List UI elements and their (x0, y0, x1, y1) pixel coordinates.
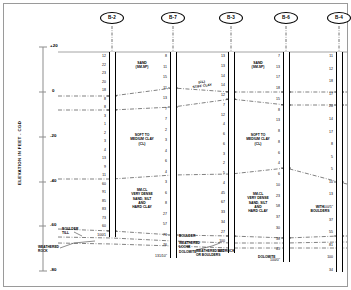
blow-count-value: 13 (205, 54, 225, 58)
blow-count-value: 81 (313, 243, 333, 247)
blow-count-value: 2 (205, 161, 225, 165)
sample-interval-marks (107, 88, 344, 238)
blow-count-value: 67 (205, 200, 225, 204)
blow-count-value: 5 (313, 155, 333, 159)
blow-count-value: 3 (147, 180, 167, 184)
blow-count-value: 13 (313, 192, 333, 196)
annotation-label: WEATHERED ROCK (38, 245, 59, 253)
blow-count-value: 22 (86, 63, 106, 67)
blow-count-value: 85 (86, 199, 106, 203)
blow-count-value: 11 (147, 86, 167, 90)
blow-count-value: 34 (205, 220, 225, 224)
blow-count-value: 20 (313, 104, 333, 108)
blow-count-value: 4 (147, 170, 167, 174)
axis-tick-label: -40 (50, 179, 57, 184)
axis-tick-label: +20 (50, 44, 58, 49)
blow-count-value: 83 (86, 207, 106, 211)
blow-count-value: 3 (86, 114, 106, 118)
blow-count-value: 11 (313, 54, 333, 58)
blow-count-value: 27 (205, 230, 225, 234)
blow-count-value: 18 (260, 86, 280, 90)
blow-count-value: 12 (313, 67, 333, 71)
blow-count-value: 15 (147, 75, 167, 79)
annotation-label: WEATHERED BEDROCK OR BOULDERS (196, 249, 235, 257)
blow-count-value: 55 (313, 230, 333, 234)
axis-tick-label: 0 (52, 89, 55, 94)
blow-count-value: 11 (86, 173, 106, 177)
blow-count-value: 4 (147, 149, 167, 153)
borehole-id-b2: B-2 (100, 15, 124, 20)
borehole-id-b6: B-6 (274, 15, 298, 20)
annotation-label: LOOSE (179, 245, 191, 249)
blow-count-value: 45 (260, 247, 280, 251)
blow-count-value: 13 (147, 96, 167, 100)
annotation-label: DOLOMITE (179, 250, 196, 254)
borehole-casing-b4 (336, 52, 343, 272)
annotation-label: BOULDER (179, 234, 195, 238)
blow-count-value: 100 (205, 239, 225, 243)
blow-count-value: 12 (205, 113, 225, 117)
blow-count-value: 60 (86, 182, 106, 186)
blow-count-value: 7 (205, 103, 225, 107)
blow-count-value: 7 (147, 117, 167, 121)
blow-count-value: 76 (147, 243, 167, 247)
soil-description-label: SAND (SM-SP) (236, 61, 280, 70)
drawing-sheet: ELEVATION IN FEET - CGD +20 0 -20 -40 -6… (0, 0, 351, 290)
blow-count-value: 30 (260, 226, 280, 230)
soil-description-label: SOFT TO MEDIUM CLAY (CL) (236, 133, 280, 146)
blow-count-value: 17 (313, 130, 333, 134)
blow-count-value: 73 (147, 233, 167, 237)
soil-description-label: WITH BOULDERS (298, 205, 342, 214)
blow-count-value: 10 (313, 180, 333, 184)
blow-count-value: 131/10" (147, 254, 167, 258)
blow-count-value: 8 (86, 97, 106, 101)
blow-count-value: 37 (260, 215, 280, 219)
blow-count-value: 20 (86, 80, 106, 84)
blow-count-value: 1 (86, 122, 106, 126)
borehole-casing-b6 (283, 52, 290, 262)
blow-count-value: 4 (260, 161, 280, 165)
blow-count-value: 13 (260, 118, 280, 122)
blow-count-value: 100/1 (86, 233, 106, 237)
borehole-id-b4: B-4 (327, 15, 351, 20)
blow-count-value: 13 (86, 156, 106, 160)
blow-count-value: 33 (205, 210, 225, 214)
blow-count-value: 5 (205, 171, 225, 175)
blow-count-value: 2 (86, 131, 106, 135)
blow-count-value: 27 (147, 212, 167, 216)
borehole-id-b7: B-7 (161, 15, 185, 20)
soil-description-label: SM-CL VERY DENSE SAND, SILT AND HARD CLA… (120, 188, 164, 209)
blow-count-value: 14 (313, 117, 333, 121)
blow-count-value: 7 (147, 107, 167, 111)
blow-count-value: 12 (205, 93, 225, 97)
blow-count-value: 4 (86, 148, 106, 152)
blow-count-value: 12 (86, 54, 106, 58)
blow-count-value: 34 (313, 268, 333, 272)
blow-count-value: 6 (205, 132, 225, 136)
elevation-axis (39, 47, 47, 271)
blow-count-value: 7 (260, 54, 280, 58)
soil-description-label: SM-CL VERY DENSE SAND, SILT AND HARD CLA… (236, 192, 280, 213)
blow-count-value: 6 (147, 159, 167, 163)
blow-count-value: 4 (205, 122, 225, 126)
borehole-callout-stems (112, 26, 339, 52)
blow-count-value: 6 (205, 142, 225, 146)
blow-count-value: 6 (260, 172, 280, 176)
soil-description-label: SAND (SM-SP) (120, 61, 164, 70)
blow-count-value: 60 (86, 224, 106, 228)
blow-count-value: 8 (260, 108, 280, 112)
blow-count-value: 100 (313, 255, 333, 259)
blow-count-value: 91 (86, 190, 106, 194)
borehole-casing-b2 (109, 52, 116, 237)
blow-count-value: 6 (260, 151, 280, 155)
annotation-label: DOLOMITE (258, 255, 275, 259)
blow-count-value: 17 (313, 92, 333, 96)
blow-count-value: 2 (147, 128, 167, 132)
blow-count-value: 9 (86, 165, 106, 169)
axis-tick-label: -80 (50, 268, 57, 273)
borehole-casing-b7 (170, 52, 177, 258)
blow-count-value: 23 (86, 71, 106, 75)
blow-count-value: 8 (147, 54, 167, 58)
blow-count-value: 15 (260, 97, 280, 101)
blow-count-value: 3 (86, 139, 106, 143)
